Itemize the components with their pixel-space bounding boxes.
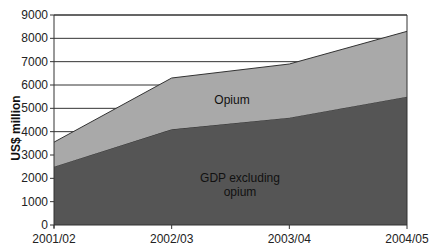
y-tick-label: 7000	[21, 55, 48, 69]
y-tick-label: 8000	[21, 31, 48, 45]
y-axis-title: US$ million	[9, 95, 23, 160]
x-tick-label: 2001/02	[32, 232, 76, 246]
y-axis-ticks: 0100020003000400050006000700080009000	[21, 8, 54, 232]
x-tick-label: 2003/04	[268, 232, 312, 246]
y-tick-label: 5000	[21, 101, 48, 115]
area-label: Opium	[214, 93, 249, 107]
x-tick-label: 2004/05	[385, 232, 429, 246]
y-tick-label: 2000	[21, 171, 48, 185]
y-tick-label: 9000	[21, 8, 48, 22]
stacked-area-chart: GDP excludingopiumOpium 0100020003000400…	[0, 0, 433, 252]
y-tick-label: 6000	[21, 78, 48, 92]
y-tick-label: 4000	[21, 125, 48, 139]
area-label: opium	[224, 185, 257, 199]
y-tick-label: 3000	[21, 148, 48, 162]
area-label: GDP excluding	[200, 171, 280, 185]
y-tick-label: 1000	[21, 195, 48, 209]
x-tick-label: 2002/03	[150, 232, 194, 246]
y-tick-label: 0	[41, 218, 48, 232]
x-axis-ticks: 2001/022002/032003/042004/05	[32, 225, 429, 246]
